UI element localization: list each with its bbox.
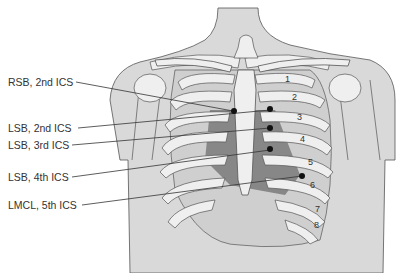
label-lsb-3rd-ics: LSB, 3rd ICS <box>8 139 69 151</box>
rib-number-1: 1 <box>285 74 290 84</box>
label-lsb-2nd-ics: LSB, 2nd ICS <box>8 122 72 134</box>
rib-number-7: 7 <box>315 204 320 214</box>
rib-number-2: 2 <box>292 92 297 102</box>
label-rsb-2nd-ics: RSB, 2nd ICS <box>8 76 73 88</box>
label-lmcl-5th-ics: LMCL, 5th ICS <box>8 199 77 211</box>
marker-lsb-4th-ics <box>267 146 273 152</box>
marker-lsb-3rd-ics <box>267 125 273 131</box>
rib-cage-illustration: 1 2 3 4 5 6 7 8 <box>0 0 402 273</box>
rib-number-5: 5 <box>308 157 313 167</box>
rib-number-3: 3 <box>297 112 302 122</box>
marker-rsb-2nd-ics <box>231 108 237 114</box>
rib-number-8: 8 <box>314 220 319 230</box>
rib-number-4: 4 <box>300 134 305 144</box>
marker-lmcl-5th-ics <box>299 173 305 179</box>
chest-anatomy-diagram: 1 2 3 4 5 6 7 8 RSB, 2nd ICS LSB, 2nd IC… <box>0 0 402 273</box>
rib-number-6: 6 <box>310 180 315 190</box>
marker-lsb-2nd-ics <box>267 106 273 112</box>
label-lsb-4th-ics: LSB, 4th ICS <box>8 171 69 183</box>
